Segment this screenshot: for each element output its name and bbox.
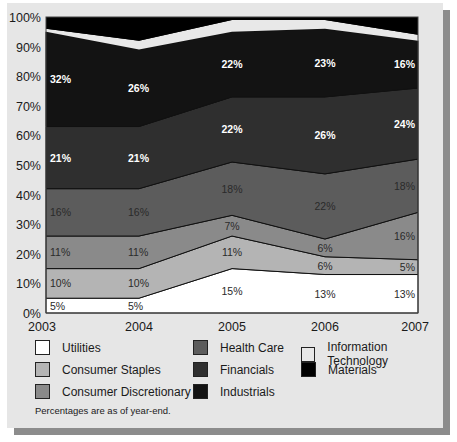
- legend-swatch: [193, 340, 208, 355]
- y-tick-label: 100%: [9, 11, 41, 25]
- x-tick-label: 2006: [311, 320, 339, 334]
- data-label: 11%: [222, 246, 242, 258]
- x-tick-label: 2005: [218, 320, 246, 334]
- legend-item-materials: Materials: [301, 362, 377, 377]
- y-axis: 0%10%20%30%40%50%60%70%80%90%100%: [9, 11, 41, 321]
- data-label: 13%: [314, 288, 335, 300]
- data-label: 23%: [314, 57, 336, 69]
- y-tick-label: 0%: [23, 307, 41, 321]
- data-label: 5%: [400, 261, 415, 273]
- data-label: 26%: [314, 129, 336, 141]
- y-tick-label: 70%: [16, 100, 41, 114]
- y-tick-label: 10%: [16, 277, 41, 291]
- data-label: 16%: [128, 206, 149, 218]
- data-label: 22%: [221, 58, 243, 70]
- x-tick-label: 2003: [28, 320, 56, 334]
- x-axis: 20032004200520062007: [28, 320, 429, 334]
- data-label: 18%: [394, 180, 415, 192]
- data-label: 32%: [50, 73, 72, 85]
- data-label: 10%: [128, 277, 149, 289]
- data-label: 21%: [128, 152, 150, 164]
- legend-swatch: [35, 340, 50, 355]
- y-tick-label: 30%: [16, 218, 41, 232]
- legend-label: Utilities: [62, 341, 101, 355]
- data-label: 16%: [394, 230, 415, 242]
- legend-item-consumer-discretionary: Consumer Discretionary: [35, 384, 191, 399]
- data-label: 16%: [394, 58, 416, 70]
- y-tick-label: 50%: [16, 159, 41, 173]
- data-label: 22%: [221, 123, 243, 135]
- legend-label: Consumer Staples: [62, 363, 161, 377]
- legend-item-utilities: Utilities: [35, 340, 101, 355]
- y-tick-label: 20%: [16, 248, 41, 262]
- x-tick-label: 2004: [125, 320, 153, 334]
- data-label: 21%: [50, 152, 72, 164]
- y-tick-label: 80%: [16, 70, 41, 84]
- x-tick-label: 2007: [401, 320, 429, 334]
- legend-label: Health Care: [220, 341, 284, 355]
- legend-swatch: [193, 362, 208, 377]
- legend-item-consumer-staples: Consumer Staples: [35, 362, 161, 377]
- data-label: 7%: [224, 220, 239, 232]
- y-tick-label: 60%: [16, 129, 41, 143]
- legend-swatch: [35, 384, 50, 399]
- data-label: 18%: [221, 183, 242, 195]
- data-label: 5%: [128, 300, 143, 312]
- legend-item-industrials: Industrials: [193, 384, 275, 399]
- legend-item-financials: Financials: [193, 362, 274, 377]
- y-tick-label: 90%: [16, 41, 41, 55]
- y-tick-label: 40%: [16, 189, 41, 203]
- legend-label: Consumer Discretionary: [62, 385, 191, 399]
- data-label: 15%: [221, 285, 242, 297]
- legend-swatch: [301, 362, 316, 377]
- data-label: 5%: [50, 300, 65, 312]
- legend-item-health-care: Health Care: [193, 340, 284, 355]
- legend-swatch: [301, 347, 315, 362]
- data-label: 11%: [50, 246, 70, 258]
- legend-swatch: [193, 384, 208, 399]
- legend-label: Materials: [328, 363, 377, 377]
- legend-swatch: [35, 362, 50, 377]
- data-label: 13%: [394, 288, 415, 300]
- footnote: Percentages are as of year-end.: [35, 405, 171, 416]
- data-label: 16%: [50, 206, 71, 218]
- data-label: 10%: [50, 277, 71, 289]
- data-label: 22%: [314, 200, 335, 212]
- legend-label: Financials: [220, 363, 274, 377]
- data-label: 6%: [317, 260, 332, 272]
- data-label: 6%: [317, 242, 332, 254]
- data-label: 24%: [394, 118, 416, 130]
- data-label: 26%: [128, 82, 150, 94]
- legend-label: Industrials: [220, 385, 275, 399]
- data-label: 11%: [128, 246, 148, 258]
